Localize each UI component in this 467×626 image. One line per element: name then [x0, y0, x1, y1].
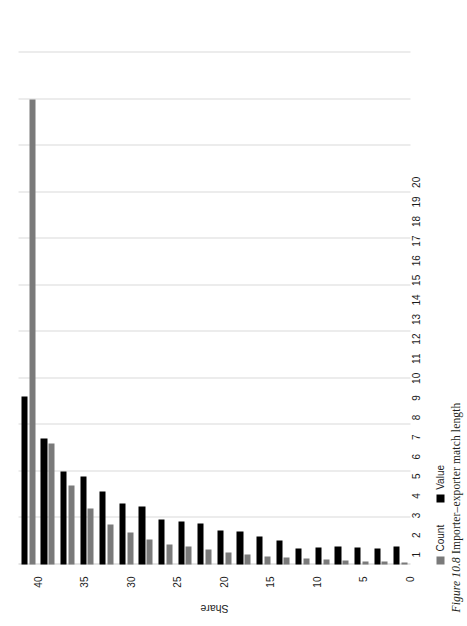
bar-value-12	[236, 531, 242, 564]
bar-value-4	[80, 476, 86, 564]
bar-row	[332, 52, 352, 564]
bar-row	[273, 52, 293, 564]
bar-count-14	[283, 557, 289, 564]
category-tick-label-1: 1	[410, 551, 421, 557]
bar-count-13	[264, 556, 270, 564]
category-tick-label-14: 14	[410, 294, 421, 305]
bar-count-12	[244, 554, 250, 564]
figure-caption: Figure 10.8 Importer–exporter match leng…	[449, 12, 461, 612]
bar-value-15	[295, 548, 301, 564]
legend-item-value[interactable]: Value	[434, 464, 445, 502]
category-tick-label-18: 18	[410, 215, 421, 226]
bar-count-9	[185, 546, 191, 564]
bar-row	[96, 52, 116, 564]
legend-swatch-icon-count	[436, 556, 444, 564]
bar-count-7	[146, 539, 152, 564]
bar-count-2	[48, 443, 54, 564]
bar-value-14	[276, 540, 282, 564]
bar-value-8	[158, 519, 164, 564]
bar-value-16	[315, 547, 321, 564]
figure-number: Figure 10.8	[449, 556, 461, 612]
bar-row	[38, 52, 58, 564]
bar-row	[253, 52, 273, 564]
bar-row	[116, 52, 136, 564]
bar-count-19	[381, 561, 387, 564]
bar-row	[371, 52, 391, 564]
chart-legend: CountValue	[434, 464, 445, 564]
value-tick-label-35: 35	[79, 576, 90, 626]
plot-area	[18, 52, 410, 564]
value-tick-label-0: 0	[405, 576, 416, 626]
bar-row	[351, 52, 371, 564]
legend-item-count[interactable]: Count	[434, 524, 445, 564]
bar-count-16	[323, 559, 329, 564]
bar-value-5	[99, 491, 105, 564]
value-axis-ticks: 0510152025303540455055	[18, 568, 410, 626]
bar-count-8	[166, 544, 172, 564]
bar-row	[18, 52, 38, 564]
category-tick-label-20: 20	[410, 176, 421, 187]
category-tick-label-10: 10	[410, 372, 421, 383]
value-tick-label-15: 15	[265, 576, 276, 626]
value-tick-label-40: 40	[32, 576, 43, 626]
bar-value-6	[119, 503, 125, 564]
category-tick-label-11: 11	[410, 353, 421, 363]
bar-count-6	[127, 532, 133, 564]
legend-swatch-icon-value	[436, 494, 444, 502]
value-tick-label-30: 30	[125, 576, 136, 626]
bar-value-11	[217, 531, 223, 565]
category-tick-label-17: 17	[410, 235, 421, 246]
category-tick-label-4: 4	[410, 493, 421, 499]
bar-row	[155, 52, 175, 564]
bar-row	[77, 52, 97, 564]
bar-row	[292, 52, 312, 564]
bar-row	[57, 52, 77, 564]
legend-label-count: Count	[434, 524, 445, 551]
value-tick-label-5: 5	[358, 576, 369, 626]
category-tick-label-2: 2	[410, 532, 421, 538]
bar-value-18	[354, 547, 360, 564]
bar-value-10	[197, 523, 203, 564]
bar-row	[136, 52, 156, 564]
category-tick-label-3: 3	[410, 512, 421, 518]
bar-count-3	[68, 485, 74, 564]
category-tick-label-15: 15	[410, 274, 421, 285]
bar-row	[175, 52, 195, 564]
bar-count-18	[362, 561, 368, 564]
value-tick-label-25: 25	[172, 576, 183, 626]
bar-value-19	[374, 548, 380, 564]
bar-count-11	[225, 552, 231, 564]
bar-row	[194, 52, 214, 564]
bar-value-9	[178, 521, 184, 564]
bar-series-container	[18, 52, 410, 564]
category-tick-label-19: 19	[410, 196, 421, 207]
bar-value-3	[60, 471, 66, 564]
category-axis-ticks: 1234567891011121314151617181920	[410, 52, 432, 564]
category-tick-label-7: 7	[410, 434, 421, 440]
category-tick-label-13: 13	[410, 313, 421, 324]
bar-value-7	[138, 506, 144, 564]
bar-row	[234, 52, 254, 564]
value-tick-label-20: 20	[218, 576, 229, 626]
bar-row	[214, 52, 234, 564]
bar-count-4	[87, 508, 93, 564]
category-tick-label-12: 12	[410, 333, 421, 344]
bar-row	[390, 52, 410, 564]
figure-title: Importer–exporter match length	[449, 402, 461, 553]
category-tick-label-5: 5	[410, 473, 421, 479]
value-tick-label-10: 10	[311, 576, 322, 626]
legend-label-value: Value	[434, 464, 445, 489]
bar-count-5	[107, 524, 113, 564]
bar-value-1	[21, 396, 27, 564]
bar-count-17	[342, 560, 348, 564]
category-tick-label-8: 8	[410, 414, 421, 420]
bar-value-13	[256, 536, 262, 564]
figure-page: Share 0510152025303540455055 12345678910…	[0, 0, 467, 626]
category-tick-label-9: 9	[410, 395, 421, 401]
bar-count-10	[205, 549, 211, 564]
bar-value-17	[334, 546, 340, 564]
bar-count-20	[401, 562, 407, 564]
rotated-figure-container: Share 0510152025303540455055 12345678910…	[0, 0, 467, 626]
bar-row	[312, 52, 332, 564]
bar-count-1	[29, 99, 35, 564]
